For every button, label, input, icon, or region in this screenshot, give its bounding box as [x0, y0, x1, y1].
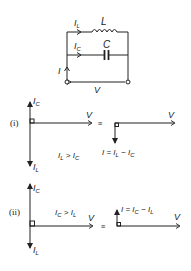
case-ii-phasor [30, 184, 179, 248]
equivalent-sign: ≡ [101, 222, 106, 231]
label-IC-up: IC [33, 183, 41, 194]
label-V: V [94, 85, 101, 95]
case-ii-labels: (ii) IC IL V IC > IL ≡ V I = IC − IL [9, 183, 181, 256]
label-IC: IC [74, 41, 82, 52]
case-i-labels: (i) IC IL V IL > IC ≡ V I = IL − IC [10, 96, 175, 173]
terminal-icon [65, 80, 69, 84]
label-V-result: V [174, 212, 181, 222]
terminal-icon [126, 80, 130, 84]
label-V: V [88, 213, 95, 223]
case-ii-label: (ii) [9, 207, 20, 217]
case-i-label: (i) [10, 118, 19, 128]
label-L: L [101, 16, 107, 27]
right-angle-icon [30, 119, 34, 123]
label-I: I [58, 66, 61, 76]
condition-text: IL > IC [58, 151, 80, 161]
label-IL-down: IL [33, 245, 39, 256]
phasor-diagram: IL L IC C I V (i) IC IL V IL > IC ≡ V I … [0, 0, 191, 271]
label-V: V [86, 110, 93, 120]
inductor-icon [92, 30, 117, 33]
right-angle-icon [115, 123, 119, 127]
label-V-result: V [168, 110, 175, 120]
result-equation: I = IC − IL [121, 205, 154, 215]
label-C: C [103, 39, 111, 50]
label-IL: IL [74, 18, 80, 29]
label-IL-down: IL [33, 162, 39, 173]
lc-parallel-circuit [65, 30, 131, 85]
condition-text: IC > IL [55, 208, 76, 218]
result-equation: I = IL − IC [102, 148, 135, 158]
right-angle-icon [117, 223, 121, 227]
label-IC-up: IC [33, 96, 41, 107]
right-angle-icon [30, 221, 35, 226]
equivalent-sign: ≡ [98, 119, 103, 128]
